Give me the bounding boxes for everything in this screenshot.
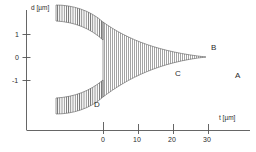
y-tick-label-neg1: -1	[12, 77, 18, 84]
x-axis-label: t [µm]	[219, 114, 235, 121]
y-tick-label-0: 0	[15, 54, 19, 61]
annotation-D: D	[94, 101, 100, 108]
x-tick-label-10: 10	[133, 136, 141, 143]
annotation-C: C	[175, 70, 181, 77]
x-tick-label-0: 0	[101, 136, 105, 143]
x-tick-label-20: 20	[168, 136, 176, 143]
annotation-B: B	[211, 44, 216, 51]
caustic-envelope	[56, 5, 206, 114]
x-tick-label-30: 30	[203, 136, 211, 143]
figure-canvas: d [µm] t [µm] 1 0 -1 0 10 20 30 A B C D	[0, 0, 256, 152]
upper-left-band	[56, 5, 103, 40]
right-wedge	[103, 22, 206, 97]
y-axis-label: d [µm]	[31, 4, 49, 11]
plot-svg	[0, 0, 256, 152]
x-tick-marks	[104, 122, 209, 134]
y-tick-label-1: 1	[15, 31, 19, 38]
annotation-A: A	[235, 72, 240, 79]
